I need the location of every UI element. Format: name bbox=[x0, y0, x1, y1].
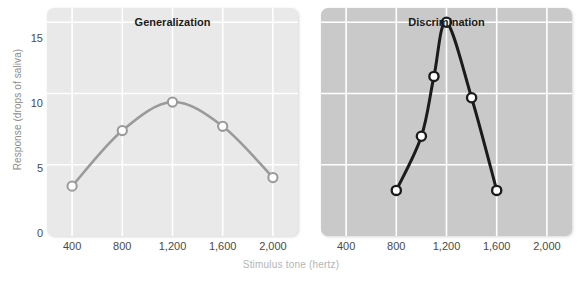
x-tick-label: 1,600 bbox=[474, 240, 520, 252]
panel-discrimination: Discrimination bbox=[321, 8, 572, 236]
panel-generalization: Generalization bbox=[47, 8, 298, 236]
x-axis-tick-labels-generalization: 4008001,2001,6002,000 bbox=[47, 240, 298, 254]
panel-title-generalization: Generalization bbox=[47, 16, 298, 28]
data-point-marker bbox=[467, 93, 476, 102]
plot-area-discrimination bbox=[321, 8, 572, 236]
data-point-marker bbox=[218, 122, 227, 131]
x-tick-label: 800 bbox=[99, 240, 145, 252]
panel-title-discrimination: Discrimination bbox=[321, 16, 572, 28]
x-tick-label: 400 bbox=[49, 240, 95, 252]
y-tick-label: 15 bbox=[17, 33, 43, 44]
data-point-marker bbox=[429, 72, 438, 81]
x-tick-label: 1,200 bbox=[424, 240, 470, 252]
x-tick-label: 400 bbox=[323, 240, 369, 252]
data-point-marker bbox=[417, 132, 426, 141]
x-tick-label: 2,000 bbox=[250, 240, 296, 252]
y-axis-tick-labels: 15 10 5 0 bbox=[17, 0, 43, 284]
y-tick-label: 0 bbox=[17, 228, 43, 239]
y-tick-label: 10 bbox=[17, 98, 43, 109]
x-axis-title: Stimulus tone (hertz) bbox=[0, 259, 582, 270]
data-point-marker bbox=[492, 186, 501, 195]
data-point-marker bbox=[68, 182, 77, 191]
x-axis-tick-labels-discrimination: 4008001,2001,6002,000 bbox=[321, 240, 572, 254]
data-point-marker bbox=[168, 97, 177, 106]
y-tick-label: 5 bbox=[17, 163, 43, 174]
x-tick-label: 1,600 bbox=[200, 240, 246, 252]
x-tick-label: 1,200 bbox=[150, 240, 196, 252]
x-tick-label: 800 bbox=[373, 240, 419, 252]
data-point-marker bbox=[392, 186, 401, 195]
x-tick-label: 2,000 bbox=[524, 240, 570, 252]
plot-area-generalization bbox=[47, 8, 298, 236]
data-point-marker bbox=[118, 126, 127, 135]
data-point-marker bbox=[268, 173, 277, 182]
chart-figure: Response (drops of saliva) 15 10 5 0 Gen… bbox=[0, 0, 582, 284]
